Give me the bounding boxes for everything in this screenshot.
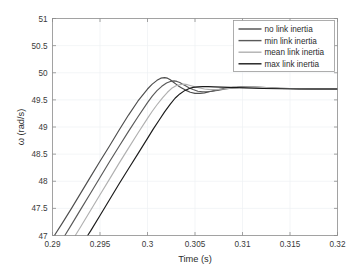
legend: no link inertiamin link inertiamean link… <box>234 21 335 72</box>
x-tick-label: 0.29 <box>45 240 61 249</box>
y-tick-label: 48.5 <box>32 150 48 159</box>
y-tick-label: 50 <box>38 69 48 78</box>
data-series-group <box>54 78 337 236</box>
x-tick-label: 0.305 <box>185 240 206 249</box>
x-tick-label: 0.3 <box>142 240 154 249</box>
x-tick-label: 0.31 <box>235 240 251 249</box>
y-tick-label: 49 <box>38 123 48 132</box>
x-tick-label: 0.32 <box>330 240 346 249</box>
line-chart: 4747.54848.54949.55050.5510.290.2950.30.… <box>0 0 358 271</box>
data-curve-no-link-inertia <box>54 78 337 236</box>
y-tick-label: 49.5 <box>32 96 48 105</box>
legend-label-0: no link inertia <box>265 25 314 34</box>
data-curve-max-link-inertia <box>88 87 338 236</box>
y-tick-label: 50.5 <box>32 42 48 51</box>
x-axis-title: Time (s) <box>178 254 212 264</box>
y-tick-label: 51 <box>38 15 48 24</box>
x-tick-label: 0.315 <box>280 240 301 249</box>
data-curve-min-link-inertia <box>65 81 338 236</box>
y-axis-title: ω (rad/s) <box>16 109 26 146</box>
y-tick-label: 47.5 <box>32 204 48 213</box>
data-curve-mean-link-inertia <box>75 84 337 235</box>
y-tick-label: 48 <box>38 177 48 186</box>
figure-container: 4747.54848.54949.55050.5510.290.2950.30.… <box>0 0 358 271</box>
legend-label-2: mean link inertia <box>265 48 325 57</box>
x-tick-label: 0.295 <box>90 240 111 249</box>
legend-label-3: max link inertia <box>265 60 320 69</box>
legend-label-1: min link inertia <box>265 37 318 46</box>
